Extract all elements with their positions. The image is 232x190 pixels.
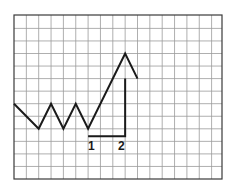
- grid-lines: [14, 15, 222, 179]
- chart-canvas: [0, 0, 232, 190]
- label-point-2: 2: [118, 140, 125, 152]
- chart-frame: [14, 15, 222, 179]
- label-point-1: 1: [88, 140, 95, 152]
- measurement-bracket: [88, 79, 125, 137]
